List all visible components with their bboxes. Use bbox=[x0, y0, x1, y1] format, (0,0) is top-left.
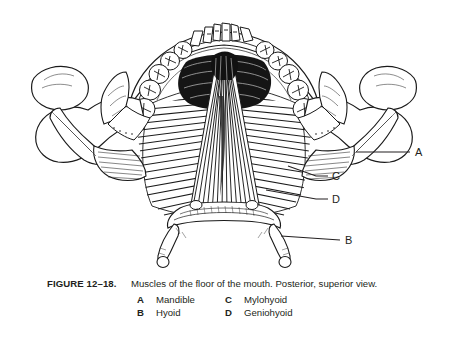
figure-caption-text: Muscles of the floor of the mouth. Poste… bbox=[131, 278, 377, 289]
figure-legend: A Mandible C Mylohyoid B Hyoid D Geniohy… bbox=[0, 294, 449, 319]
figure-caption-block: FIGURE 12–18. Muscles of the floor of th… bbox=[0, 278, 449, 319]
callout-label-b: B bbox=[345, 234, 352, 246]
legend-item-b: B Hyoid bbox=[137, 307, 225, 320]
legend-key-d: D bbox=[225, 307, 244, 320]
legend-item-c: C Mylohyoid bbox=[225, 294, 287, 307]
callout-label-a: A bbox=[415, 146, 423, 158]
legend-item-a: A Mandible bbox=[137, 294, 225, 307]
callout-label-d: D bbox=[332, 193, 340, 205]
legend-key-c: C bbox=[225, 294, 244, 307]
figure-container: A C D B FIGURE 12–18. Muscles of the flo… bbox=[0, 0, 449, 337]
legend-key-a: A bbox=[137, 294, 156, 307]
legend-value-a: Mandible bbox=[156, 294, 195, 307]
anatomical-illustration-mandible-floor-of-mouth: A C D B bbox=[0, 0, 449, 272]
legend-row: A Mandible C Mylohyoid bbox=[137, 294, 449, 307]
callout-label-c: C bbox=[332, 170, 340, 182]
legend-row: B Hyoid D Geniohyoid bbox=[137, 307, 449, 320]
legend-key-b: B bbox=[137, 307, 156, 320]
figure-number: FIGURE 12–18. bbox=[47, 278, 117, 289]
legend-value-d: Geniohyoid bbox=[244, 307, 293, 320]
legend-item-d: D Geniohyoid bbox=[225, 307, 293, 320]
figure-caption-line: FIGURE 12–18. Muscles of the floor of th… bbox=[0, 278, 449, 290]
legend-value-b: Hyoid bbox=[156, 307, 181, 320]
legend-value-c: Mylohyoid bbox=[244, 294, 287, 307]
